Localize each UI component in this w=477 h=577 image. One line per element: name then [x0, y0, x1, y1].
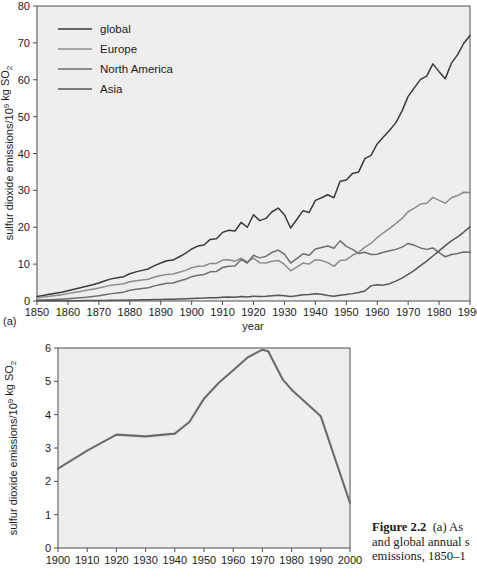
y-tick-label: 10 — [18, 258, 30, 270]
x-tick-label: 1890 — [148, 306, 172, 318]
caption-line-3: emissions, 1850–1 — [372, 549, 477, 564]
x-tick-label: 1960 — [365, 306, 389, 318]
panel-a-tag: (a) — [3, 315, 16, 327]
panel-b-y-ticks: 0123456 — [45, 342, 58, 554]
y-tick-label: 30 — [18, 184, 30, 196]
panel-b-plot-background — [58, 348, 350, 548]
y-tick-label: 3 — [45, 442, 51, 454]
panel-a-y-axis-title: sulfur dioxide emissions/109 kg SO2 — [0, 65, 15, 240]
panel-b-chart: 0123456 19001910192019301940195019601970… — [0, 330, 380, 577]
panel-b-x-ticks: 1900191019201930194019501960197019801990… — [46, 548, 362, 566]
x-tick-label: 1950 — [192, 554, 216, 566]
x-tick-label: 1980 — [279, 554, 303, 566]
x-tick-label: 1870 — [87, 306, 111, 318]
legend-label-north-america: North America — [100, 63, 173, 75]
x-tick-label: 1910 — [75, 554, 99, 566]
figure-2-2: 01020304050607080 1850186018701880189019… — [0, 0, 477, 577]
legend-label-asia: Asia — [100, 83, 123, 95]
y-tick-label: 70 — [18, 37, 30, 49]
x-tick-label: 1950 — [334, 306, 358, 318]
y-tick-label: 4 — [45, 409, 51, 421]
y-tick-label: 6 — [45, 342, 51, 354]
legend-label-global: global — [100, 23, 131, 35]
x-tick-label: 1930 — [272, 306, 296, 318]
y-tick-label: 2 — [45, 475, 51, 487]
y-tick-label: 80 — [18, 0, 30, 12]
x-tick-label: 1990 — [458, 306, 477, 318]
y-tick-label: 0 — [45, 542, 51, 554]
panel-a-y-ticks: 01020304050607080 — [18, 0, 37, 307]
x-tick-label: 1960 — [221, 554, 245, 566]
x-tick-label: 1990 — [309, 554, 333, 566]
panel-b-svg: 0123456 19001910192019301940195019601970… — [0, 330, 380, 577]
x-tick-label: 1900 — [179, 306, 203, 318]
panel-a-chart: 01020304050607080 1850186018701880189019… — [0, 0, 477, 336]
x-tick-label: 1930 — [133, 554, 157, 566]
legend-label-europe: Europe — [100, 43, 137, 55]
y-tick-label: 50 — [18, 111, 30, 123]
x-tick-label: 1970 — [396, 306, 420, 318]
x-tick-label: 1860 — [56, 306, 80, 318]
caption-line-2: and global annual s — [372, 535, 477, 550]
x-tick-label: 1940 — [163, 554, 187, 566]
x-tick-label: 1900 — [46, 554, 70, 566]
x-tick-label: 2000 — [338, 554, 362, 566]
panel-a-x-ticks: 1850186018701880189019001910192019301940… — [25, 301, 477, 318]
y-tick-label: 5 — [45, 375, 51, 387]
x-tick-label: 1920 — [104, 554, 128, 566]
x-tick-label: 1980 — [427, 306, 451, 318]
x-tick-label: 1880 — [118, 306, 142, 318]
y-tick-label: 60 — [18, 74, 30, 86]
y-tick-label: 40 — [18, 148, 30, 160]
x-tick-label: 1940 — [303, 306, 327, 318]
x-tick-label: 1970 — [250, 554, 274, 566]
caption-line-1-rest: (a) As — [433, 520, 463, 534]
figure-caption: Figure 2.2 (a) As and global annual s em… — [372, 520, 477, 564]
x-tick-label: 1850 — [25, 306, 49, 318]
panel-a-svg: 01020304050607080 1850186018701880189019… — [0, 0, 477, 336]
x-tick-label: 1910 — [210, 306, 234, 318]
x-tick-label: 1920 — [241, 306, 265, 318]
y-tick-label: 20 — [18, 221, 30, 233]
panel-b-y-axis-title: sulfur dioxide emissions/109 kg SO2 — [3, 360, 19, 535]
caption-figure-number: Figure 2.2 — [372, 520, 426, 534]
y-tick-label: 1 — [45, 509, 51, 521]
caption-line-1: Figure 2.2 (a) As — [372, 520, 477, 535]
